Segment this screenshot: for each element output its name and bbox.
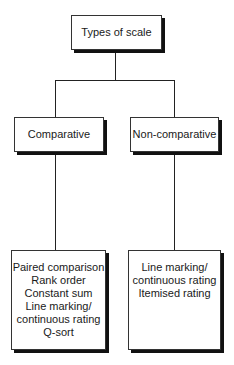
root-stem-line <box>115 50 116 80</box>
root-label: Types of scale <box>81 26 151 39</box>
list-item: continuous rating <box>12 313 105 326</box>
root-node: Types of scale <box>71 15 162 50</box>
right-leaf-line <box>174 152 175 250</box>
non-comparative-label: Non-comparative <box>133 128 217 141</box>
list-item: Line marking/ <box>12 300 105 313</box>
comparative-label: Comparative <box>28 128 90 141</box>
non-comparative-node: Non-comparative <box>130 117 219 152</box>
list-item: Rank order <box>12 274 105 287</box>
list-item: continuous rating <box>129 274 220 287</box>
list-item: Line marking/ <box>129 261 220 274</box>
list-item: Constant sum <box>12 287 105 300</box>
right-branch-line <box>174 80 175 117</box>
non-comparative-items-box: Line marking/ continuous rating Itemised… <box>128 250 221 350</box>
branch-horizontal-line <box>55 80 175 81</box>
list-item: Paired comparison <box>12 261 105 274</box>
list-item: Itemised rating <box>129 287 220 300</box>
left-leaf-line <box>55 152 56 250</box>
list-item: Q-sort <box>12 326 105 339</box>
comparative-node: Comparative <box>14 117 104 152</box>
comparative-items-box: Paired comparison Rank order Constant su… <box>11 250 106 350</box>
left-branch-line <box>55 80 56 117</box>
